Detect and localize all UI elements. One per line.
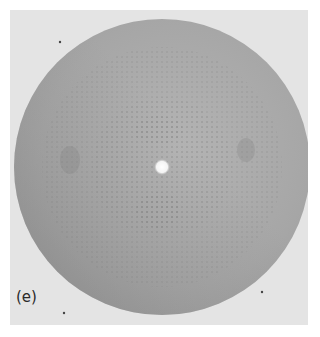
- diffraction-pattern: [10, 10, 308, 325]
- beam-center-spot: [154, 159, 170, 175]
- panel-label: (e): [16, 288, 37, 306]
- diffraction-image: [10, 10, 308, 325]
